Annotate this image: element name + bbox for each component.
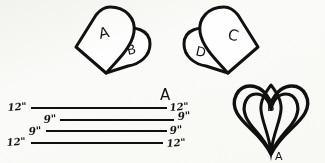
strip-2-left-label: 9" [43, 112, 57, 125]
figure-petal-pair-ab: A B [58, 2, 156, 80]
heart-label-b: B [267, 101, 275, 114]
diagram-page: A B C D A 12" 12" 9" 9" 9" [0, 0, 325, 163]
strip-4-left-label: 12" [6, 135, 26, 148]
figure-nested-heart: B A [228, 82, 314, 162]
heart-label-a: A [275, 150, 283, 163]
strip-3-right-label: 9" [169, 123, 183, 136]
strip-1-left-label: 12" [7, 100, 27, 113]
figure-petal-pair-cd: C D [178, 2, 276, 80]
strip-4-right-label: 12" [166, 136, 186, 149]
strip-2-right-label: 9" [177, 109, 191, 122]
figure-measured-strips: A 12" 12" 9" 9" 9" 9" 12" 12" [4, 84, 200, 162]
strip-3-left-label: 9" [28, 124, 42, 137]
